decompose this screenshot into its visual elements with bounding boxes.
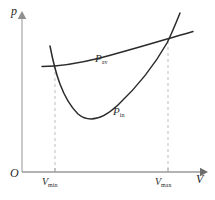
x-tick-label-vmin: Vmin (42, 176, 57, 188)
chart-canvas (0, 0, 215, 200)
vmax-subscript: max (161, 182, 171, 188)
x-tick-label-vmax: Vmax (155, 176, 171, 188)
pav-base: P (95, 52, 102, 64)
pin-subscript: in (120, 112, 125, 118)
curve-p-in (50, 13, 180, 119)
pin-base: P (113, 105, 120, 117)
vmin-subscript: min (48, 182, 57, 188)
curve-label-p-av: Pav (95, 52, 107, 65)
y-axis-label: p (11, 4, 17, 19)
curve-label-p-in: Pin (113, 105, 124, 118)
pv-diagram-figure: p V O Vmin Vmax Pav Pin (0, 0, 215, 200)
origin-label: O (10, 166, 19, 181)
pav-subscript: av (102, 59, 108, 65)
x-axis-label: V (196, 172, 203, 187)
